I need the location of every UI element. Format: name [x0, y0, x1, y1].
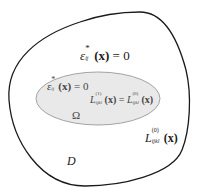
subscript: ijkl	[132, 100, 138, 105]
equation-rhs: = 0	[113, 48, 130, 63]
argument: (x)	[164, 131, 178, 145]
subscript: ijkl	[152, 138, 160, 144]
argument: (x)	[105, 94, 117, 105]
outer-stiffness-label: L(0)ijkl (x)	[145, 132, 178, 144]
superscript: *	[51, 76, 55, 84]
stiffness-symbol: L	[145, 131, 152, 145]
equals-sign: =	[119, 94, 125, 105]
superscript: (0)	[132, 91, 138, 96]
superscript: *	[85, 44, 90, 53]
superscript: (1)	[96, 91, 102, 96]
argument: (x)	[94, 48, 109, 63]
inner-stiffness-label: L(1)ijkl (x) = L(0)ijkl (x)	[90, 95, 153, 105]
outer-eigenstrain-label: ε*ij (x) = 0	[80, 49, 130, 62]
argument: (x)	[58, 80, 71, 92]
subscript: ij	[51, 86, 54, 91]
argument: (x)	[141, 94, 153, 105]
domain-label: D	[67, 155, 76, 167]
subscript: ij	[85, 55, 88, 61]
subscript: ijkl	[96, 100, 102, 105]
superscript: (0)	[152, 127, 159, 133]
inner-eigenstrain-label: ε*ij (x) = 0	[47, 81, 88, 92]
omega-label: Ω	[72, 110, 80, 121]
equation-rhs: = 0	[74, 80, 88, 92]
